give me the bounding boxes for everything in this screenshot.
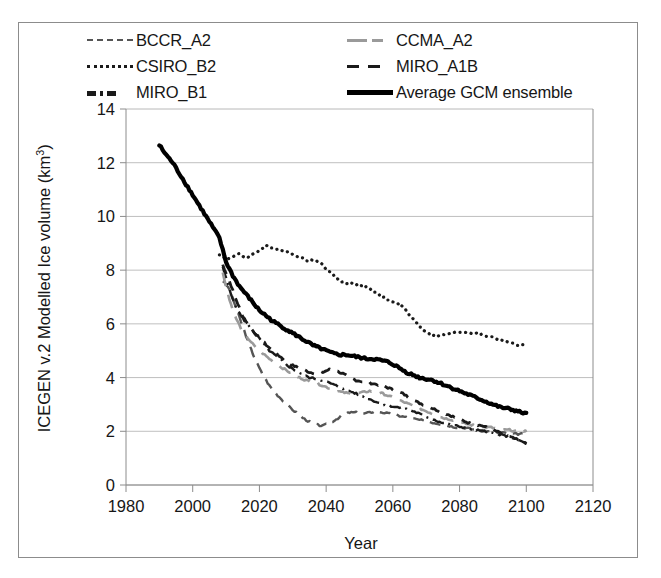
series-line-ccma-a2: [223, 272, 527, 432]
y-tick-label: 8: [106, 261, 115, 279]
chart-svg: 0246810121419802000202020402060208021002…: [19, 23, 639, 559]
figure-container: BCCR_A2 CSIRO_B2 MIRO_B1 CCMA_A2 MIRO_A1…: [18, 22, 638, 558]
y-tick-label: 4: [106, 369, 115, 387]
plot-area: ICEGEN v.2 Modelled Ice volume (km3) Yea…: [19, 23, 639, 559]
y-tick-label: 14: [97, 100, 115, 118]
x-tick-label: 2060: [374, 497, 411, 515]
y-tick-label: 6: [106, 315, 115, 333]
y-tick-label: 12: [97, 154, 115, 172]
x-tick-label: 2040: [308, 497, 345, 515]
y-tick-label: 2: [106, 422, 115, 440]
series-line-csiro-b2: [219, 245, 526, 346]
x-tick-label: 2100: [508, 497, 545, 515]
x-tick-label: 2080: [441, 497, 478, 515]
x-tick-label: 1980: [108, 497, 145, 515]
x-tick-label: 2000: [174, 497, 211, 515]
x-tick-label: 2020: [241, 497, 278, 515]
x-tick-label: 2120: [575, 497, 612, 515]
y-tick-label: 10: [97, 207, 115, 225]
y-tick-label: 0: [106, 476, 115, 494]
